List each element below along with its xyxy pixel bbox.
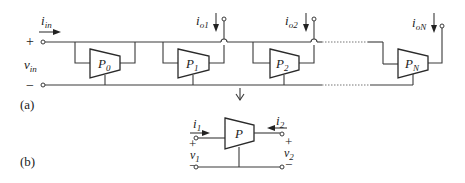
port2-minus-sign: − <box>285 157 292 172</box>
block-pn: PN <box>398 28 442 78</box>
input-terminal-plus <box>41 40 45 44</box>
input-minus-sign: − <box>26 78 34 93</box>
output-io2-label: io2 <box>285 13 298 30</box>
input-voltage-label: vin <box>24 57 37 74</box>
output-io2: io2 <box>285 13 316 39</box>
port2-terminal-bottom <box>280 165 284 169</box>
block-p1: P1 <box>163 42 224 85</box>
block-p-label: P <box>234 126 243 141</box>
output-terminal-io2 <box>312 17 316 21</box>
output-ion: ioN <box>412 13 444 33</box>
output-current-arrow-icon <box>303 24 309 32</box>
output-terminal-ion <box>440 24 444 28</box>
block-p0: P0 <box>75 42 135 85</box>
input-terminal-minus <box>41 83 45 87</box>
output-current-arrow-icon <box>213 24 219 32</box>
diagram-canvas: iin + vin − <box>0 0 465 183</box>
output-io1-label: io1 <box>196 13 209 30</box>
output-terminal-io1 <box>222 17 226 21</box>
port2-terminal-top <box>280 132 284 136</box>
part-b: i1 + v1 − P i2 + v2 − (b) <box>20 113 294 173</box>
caption-b: (b) <box>20 154 35 169</box>
port1-terminal-bottom <box>194 165 198 169</box>
down-arrow-icon <box>236 88 244 100</box>
part-a: iin + vin − <box>20 13 444 112</box>
caption-a: (a) <box>20 97 34 112</box>
block-p2: P2 <box>253 42 314 85</box>
port1-current-label: i1 <box>193 116 201 133</box>
output-current-arrow-icon <box>431 25 437 33</box>
input-plus-sign: + <box>26 34 34 49</box>
input-current-label: iin <box>41 13 52 30</box>
output-ion-label: ioN <box>412 15 427 32</box>
output-io1: io1 <box>196 13 226 39</box>
